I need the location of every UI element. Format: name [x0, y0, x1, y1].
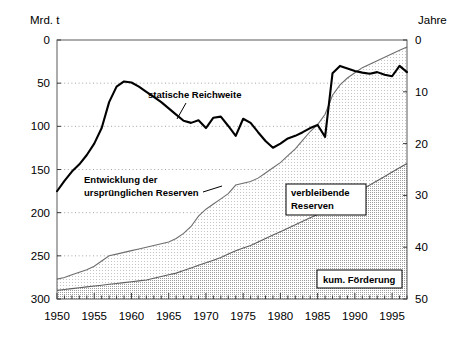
annotation-label-entwicklung-line1: Entwicklung der — [84, 174, 158, 185]
ytick-label-left-50: 250 — [31, 250, 50, 262]
annotation-label-entwicklung-line2: ursprünglichen Reserven — [84, 187, 199, 198]
xtick-label-1975: 1975 — [230, 310, 256, 322]
xtick-label-1995: 1995 — [379, 310, 405, 322]
xtick-label-1990: 1990 — [342, 310, 368, 322]
xtick-label-1955: 1955 — [81, 310, 107, 322]
annotation-label-verbleibende-line2: Reserven — [291, 200, 334, 211]
annotation-verbleibende-reserven: verbleibende Reserven — [286, 184, 366, 215]
xtick-label-1970: 1970 — [193, 310, 219, 322]
annotation-label-statische-reichweite: statische Reichweite — [148, 89, 241, 100]
ytick-label-right-40: 10 — [415, 86, 428, 98]
xtick-label-1985: 1985 — [305, 310, 331, 322]
xtick-label-1960: 1960 — [119, 310, 145, 322]
ytick-label-right-30: 20 — [415, 138, 428, 150]
ytick-label-right-50: 0 — [415, 34, 421, 46]
annotation-kum-foerderung: kum. Förderung — [317, 270, 402, 288]
annotation-label-kum-foerderung: kum. Förderung — [323, 274, 396, 285]
ytick-label-right-20: 30 — [415, 189, 428, 201]
ytick-label-right-10: 40 — [415, 241, 428, 253]
chart-container: Mrd. t Jahre 300250200150100500504030201… — [0, 0, 465, 341]
y-axis-left-unit: Mrd. t — [30, 14, 60, 26]
annotation-label-verbleibende-line1: verbleibende — [291, 187, 350, 198]
y-axis-right-unit: Jahre — [418, 14, 447, 26]
xtick-label-1980: 1980 — [268, 310, 294, 322]
ytick-label-left-300: 0 — [44, 34, 50, 46]
ytick-label-right-0: 50 — [415, 293, 428, 305]
ytick-label-left-150: 150 — [31, 164, 50, 176]
xtick-label-1950: 1950 — [44, 310, 70, 322]
ytick-label-left-100: 200 — [31, 207, 50, 219]
resource-reserves-chart: Mrd. t Jahre 300250200150100500504030201… — [0, 0, 465, 341]
ytick-label-left-0: 300 — [31, 293, 50, 305]
xtick-label-1965: 1965 — [156, 310, 182, 322]
ytick-label-left-250: 50 — [37, 77, 50, 89]
ytick-label-left-200: 100 — [31, 120, 50, 132]
